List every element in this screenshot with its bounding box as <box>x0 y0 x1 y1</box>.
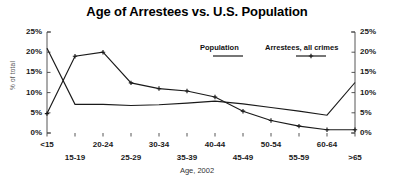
series-marker <box>241 109 245 113</box>
legend-marker-arrestees <box>309 54 313 58</box>
legend-glyphs <box>213 54 326 58</box>
series-marker <box>157 86 161 90</box>
chart-figure: Age of Arrestees vs. U.S. Population % o… <box>0 0 394 184</box>
series-marker <box>213 95 217 99</box>
series-marker <box>297 124 301 128</box>
legend-item-population[interactable]: Population <box>200 43 239 52</box>
series-marker <box>325 128 329 132</box>
series-marker <box>73 54 77 58</box>
series-marker <box>185 89 189 93</box>
series-marker <box>45 111 49 115</box>
series-line-population <box>47 48 355 115</box>
plot-area <box>0 0 394 184</box>
series-marker <box>269 118 273 122</box>
series-group <box>45 48 357 132</box>
y-axis-left-spine <box>47 32 51 133</box>
legend-item-arrestees[interactable]: Arrestees, all crimes <box>265 43 338 52</box>
series-line-arrestees-all-crimes <box>47 52 355 130</box>
series-marker <box>353 128 357 132</box>
